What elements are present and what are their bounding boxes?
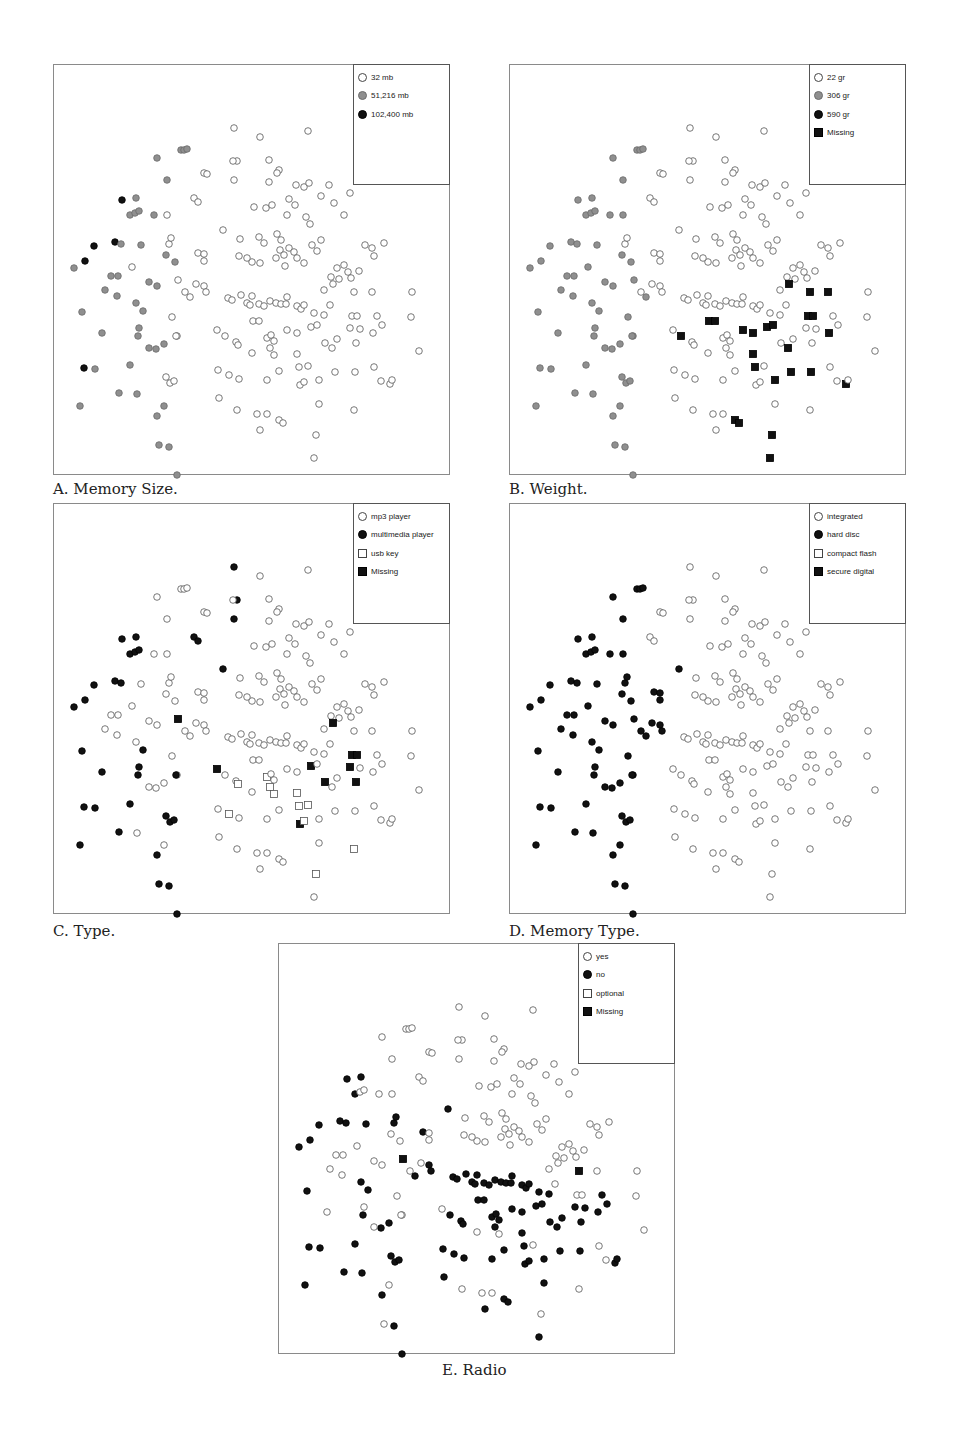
data-point <box>479 1290 486 1297</box>
data-point <box>713 699 720 706</box>
data-point <box>507 1142 514 1149</box>
data-point <box>573 1154 580 1161</box>
data-point <box>256 318 263 325</box>
data-point <box>720 411 727 418</box>
data-point <box>767 310 774 317</box>
data-point <box>332 808 339 815</box>
data-point <box>459 1286 466 1293</box>
data-point <box>163 813 170 820</box>
data-point <box>705 789 712 796</box>
data-point <box>538 258 545 265</box>
data-point <box>269 641 276 648</box>
data-point <box>267 345 274 352</box>
data-point <box>765 681 772 688</box>
data-point <box>612 881 619 888</box>
data-point <box>533 403 540 410</box>
data-point <box>257 427 264 434</box>
data-point <box>426 1137 433 1144</box>
data-point <box>278 676 285 683</box>
data-point <box>169 314 176 321</box>
data-point <box>164 651 171 658</box>
data-point <box>607 651 614 658</box>
data-point <box>740 212 747 219</box>
data-point <box>712 234 719 241</box>
data-point <box>509 1206 516 1213</box>
caption-c: C. Type. <box>53 922 115 940</box>
data-point <box>314 322 321 329</box>
data-point <box>772 840 779 847</box>
data-point <box>327 302 334 309</box>
data-point <box>115 712 122 719</box>
data-point <box>602 784 609 791</box>
data-point <box>334 265 341 272</box>
data-point <box>249 789 256 796</box>
data-point <box>322 340 329 347</box>
square-marker-icon <box>583 1007 592 1016</box>
legend-label: 306 gr <box>827 91 850 100</box>
legend-label: integrated <box>827 512 863 521</box>
data-point <box>788 369 795 376</box>
data-point <box>538 697 545 704</box>
data-point <box>229 736 236 743</box>
data-point <box>363 1121 370 1128</box>
data-point <box>334 775 341 782</box>
data-point <box>808 808 815 815</box>
data-point <box>341 701 348 708</box>
data-point <box>672 395 679 402</box>
data-point <box>348 275 355 282</box>
data-point <box>589 739 596 746</box>
data-point <box>172 259 179 266</box>
data-point <box>762 180 769 187</box>
data-point <box>195 199 202 206</box>
data-point <box>445 1106 452 1113</box>
data-point <box>416 348 423 355</box>
circle-marker-icon <box>358 91 367 100</box>
data-point <box>767 894 774 901</box>
data-point <box>727 338 734 345</box>
data-point <box>469 1134 476 1141</box>
data-point <box>767 749 774 756</box>
data-point <box>257 699 264 706</box>
data-point <box>651 250 658 257</box>
data-point <box>154 155 161 162</box>
data-point <box>236 376 243 383</box>
data-point <box>420 1129 427 1136</box>
legend-label: usb key <box>371 549 399 558</box>
data-point <box>750 330 757 337</box>
data-point <box>713 866 720 873</box>
data-point <box>719 205 726 212</box>
data-point <box>629 772 636 779</box>
data-point <box>271 352 278 359</box>
data-point <box>334 704 341 711</box>
legend-item: no <box>583 966 674 985</box>
data-point <box>378 817 385 824</box>
data-point <box>440 1246 447 1253</box>
data-point <box>276 368 283 375</box>
data-point <box>561 1155 568 1162</box>
data-point <box>386 1220 393 1227</box>
data-point <box>783 741 790 748</box>
data-point <box>612 442 619 449</box>
data-point <box>306 180 313 187</box>
data-point <box>627 378 634 385</box>
legend-item: compact flash <box>814 544 905 563</box>
data-point <box>784 274 791 281</box>
data-point <box>722 179 729 186</box>
data-point <box>631 716 638 723</box>
legend-label: hard disc <box>827 530 859 539</box>
data-point <box>136 647 143 654</box>
data-point <box>693 675 700 682</box>
data-point <box>154 413 161 420</box>
data-point <box>516 1128 523 1135</box>
data-point <box>201 690 208 697</box>
data-point <box>535 748 542 755</box>
data-point <box>640 146 647 153</box>
data-point <box>135 333 142 340</box>
data-point <box>305 802 312 809</box>
data-point <box>136 764 143 771</box>
data-point <box>778 779 785 786</box>
data-point <box>710 411 717 418</box>
data-point <box>352 369 359 376</box>
data-point <box>604 1201 611 1208</box>
data-point <box>536 1189 543 1196</box>
